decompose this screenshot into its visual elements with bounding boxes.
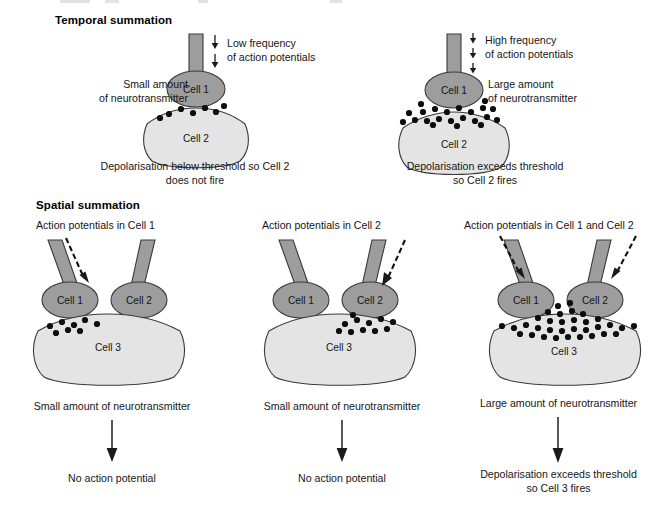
- label-cell2: Cell 2: [183, 133, 209, 144]
- spatial-panel-3-outcome: Depolarisation exceeds threshold so Cell…: [452, 468, 665, 495]
- frequency-label-line1: Low frequency: [227, 37, 315, 51]
- panel-spatial-both: Cell 1 Cell 2 Cell 3: [478, 234, 665, 389]
- down-arrow-icon: [322, 420, 362, 464]
- spatial-panel-1-amount-label: Small amount of neurotransmitter: [0, 400, 224, 414]
- spatial-panel-2-amount-label: Small amount of neurotransmitter: [230, 400, 454, 414]
- spatial-panel-3-amount-label: Large amount of neurotransmitter: [452, 397, 665, 411]
- amount-label-line2: of neurotransmitter: [0, 92, 188, 106]
- outcome-line1: Depolarisation exceeds threshold: [452, 468, 665, 482]
- impulse-direction-arrow-cell2: [611, 236, 636, 279]
- impulse-direction-arrow-cell2: [382, 240, 405, 286]
- spatial-panel-3-flow-arrow: [538, 417, 578, 465]
- amount-label-line1: Large amount: [488, 78, 577, 92]
- caption-line2: does not fire: [60, 174, 330, 188]
- section-title-spatial: Spatial summation: [36, 199, 140, 211]
- spatial-panel-3-heading: Action potentials in Cell 1 and Cell 2: [464, 219, 634, 233]
- caption-line1: Depolarisation below threshold so Cell 2: [60, 160, 330, 174]
- down-arrow-icon: [538, 417, 578, 465]
- temporal-high-caption: Depolarisation exceeds threshold so Cell…: [340, 160, 630, 187]
- down-arrow-icon: [92, 420, 132, 464]
- temporal-high-amount-label: Large amount of neurotransmitter: [488, 78, 577, 105]
- caption-line2: so Cell 2 fires: [340, 174, 630, 188]
- frequency-label-line1: High frequency: [485, 34, 573, 48]
- cropped-text-artifact: [0, 0, 665, 6]
- frequency-label-line2: of action potentials: [485, 48, 573, 62]
- action-potential-arrows: [470, 33, 476, 74]
- label-cell1: Cell 1: [513, 295, 539, 306]
- label-cell3: Cell 3: [326, 342, 352, 353]
- spatial-panel-1-heading: Action potentials in Cell 1: [36, 219, 155, 233]
- label-cell3: Cell 3: [551, 346, 577, 357]
- temporal-low-caption: Depolarisation below threshold so Cell 2…: [60, 160, 330, 187]
- amount-label-line1: Small amount: [0, 78, 188, 92]
- amount-label-line2: of neurotransmitter: [488, 92, 577, 106]
- label-cell2: Cell 2: [126, 295, 152, 306]
- figure-canvas: Temporal summation Cell 1 Cell 2: [0, 0, 665, 514]
- label-cell1: Cell 1: [441, 85, 467, 96]
- temporal-low-frequency-label: Low frequency of action potentials: [227, 37, 315, 64]
- action-potential-arrows: [212, 35, 219, 68]
- temporal-low-amount-label: Small amount of neurotransmitter: [0, 78, 188, 105]
- temporal-high-frequency-label: High frequency of action potentials: [485, 34, 573, 61]
- label-cell1: Cell 1: [57, 295, 83, 306]
- frequency-label-line2: of action potentials: [227, 51, 315, 65]
- spatial-panel-2-heading: Action potentials in Cell 2: [262, 219, 381, 233]
- axon-cell1: [447, 34, 461, 78]
- caption-line1: Depolarisation exceeds threshold: [340, 160, 630, 174]
- outcome-line2: so Cell 3 fires: [452, 482, 665, 496]
- spatial-panel-1-flow-arrow: [92, 420, 132, 464]
- panel-spatial-cell2: Cell 1 Cell 2 Cell 3: [253, 234, 443, 389]
- label-cell3: Cell 3: [95, 342, 121, 353]
- label-cell2: Cell 2: [441, 139, 467, 150]
- spatial-cell2-diagram: Cell 1 Cell 2 Cell 3: [253, 234, 443, 389]
- spatial-both-diagram: Cell 1 Cell 2 Cell 3: [478, 234, 665, 389]
- panel-spatial-cell1: Cell 1 Cell 2 Cell 3: [22, 234, 212, 389]
- label-cell2: Cell 2: [582, 295, 608, 306]
- spatial-panel-2-flow-arrow: [322, 420, 362, 464]
- section-title-temporal: Temporal summation: [55, 14, 172, 26]
- spatial-cell1-diagram: Cell 1 Cell 2 Cell 3: [22, 234, 212, 389]
- spatial-panel-2-outcome: No action potential: [230, 472, 454, 486]
- label-cell1: Cell 1: [288, 295, 314, 306]
- label-cell2: Cell 2: [357, 295, 383, 306]
- spatial-panel-1-outcome: No action potential: [0, 472, 224, 486]
